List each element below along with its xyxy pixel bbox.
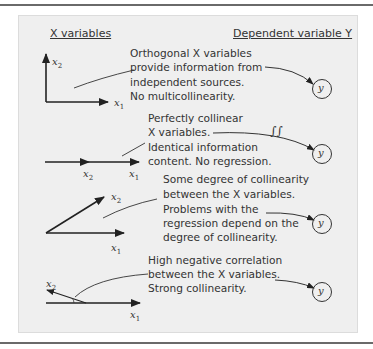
y-label-3: y: [318, 217, 324, 228]
y-label-1: y: [318, 82, 324, 93]
row-1-line-4: No multicollinearity.: [130, 89, 235, 103]
row-3-line-3: Problems with the: [163, 202, 258, 216]
row-3-line-1: Some degree of collinearity: [163, 172, 309, 186]
header-x-variables: X variables: [50, 27, 111, 40]
y-label-2: y: [318, 147, 324, 158]
y-label-4: y: [318, 285, 324, 296]
row-3-line-2: between the X variables.: [163, 187, 295, 201]
pointer-line-1: [74, 70, 134, 88]
row-1-line-3: independent sources.: [130, 75, 244, 89]
row-3-line-4: regression depend on the: [163, 216, 299, 230]
row-4-line-2: between the X variables.: [148, 267, 280, 281]
axis-label-x1: x1: [130, 309, 140, 323]
pointer-line-2: [122, 143, 145, 156]
axis-label-x2: x2: [111, 191, 121, 205]
row-3-line-5: degree of collinearity.: [163, 230, 278, 244]
break-mark-icon: ∫∫: [270, 124, 283, 138]
arrow-to-y-4: [275, 280, 314, 288]
negative-axes: [46, 290, 140, 303]
pointer-line-4: [75, 274, 148, 297]
axis-label-x2: x2: [52, 56, 62, 70]
axis-label-x2: x2: [83, 168, 93, 182]
row-2-line-2: X variables.: [148, 125, 210, 139]
row-2-line-3: Identical information: [148, 140, 258, 154]
row-4-line-3: Strong collinearity.: [148, 281, 247, 295]
row-2-line-1: Perfectly collinear: [148, 111, 243, 125]
row-1-line-2: provide information from: [130, 60, 262, 74]
axis-label-x1: x1: [111, 242, 121, 256]
header-dependent-variable: Dependent variable Y: [233, 27, 352, 40]
axis-label-x1: x1: [129, 168, 139, 182]
collinear-axes: [45, 158, 139, 166]
row-1-line-1: Orthogonal X variables: [130, 46, 252, 60]
axis-label-x2: x2: [46, 278, 56, 292]
arrow-to-y-1: [265, 67, 313, 84]
row-2-line-4: content. No regression.: [148, 154, 272, 168]
axis-label-x1: x1: [114, 97, 124, 111]
row-4-line-1: High negative correlation: [148, 253, 282, 267]
